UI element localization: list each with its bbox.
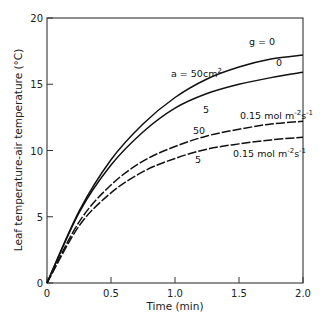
annotation-a50: a = 50cm2	[171, 67, 222, 79]
y-tick-label: 10	[30, 146, 43, 157]
annotation-50-dashed: 50	[193, 125, 205, 136]
x-tick-label: 0	[44, 288, 50, 299]
chart: 00.51.01.52.005101520 Time (min) Leaf te…	[0, 0, 323, 326]
annotation-mol-upper: 0.15 mol m-2s-1	[240, 109, 313, 121]
x-tick-label: 1.0	[167, 288, 183, 299]
series-line-1	[47, 55, 303, 283]
x-tick-label: 1.5	[231, 288, 247, 299]
series-line-2	[47, 72, 303, 283]
y-axis-label: Leaf temperature-air temperature (°C)	[12, 49, 24, 252]
y-tick-label: 20	[30, 13, 43, 24]
series-lines	[47, 55, 303, 283]
x-tick-label: 2.0	[295, 288, 311, 299]
y-tick-label: 15	[30, 79, 43, 90]
x-axis-label: Time (min)	[145, 300, 203, 312]
y-tick-label: 5	[37, 212, 43, 223]
annotation-5-solid: 5	[203, 104, 209, 115]
x-tick-label: 0.5	[103, 288, 119, 299]
annotation-5-dashed: 5	[195, 154, 201, 165]
y-tick-label: 0	[37, 278, 43, 289]
annotation-mol-lower: 0.15 mol m-2s-1	[233, 147, 306, 159]
annotation-g0: g = 0	[249, 36, 275, 47]
series-line-4	[47, 137, 303, 283]
annotation-0: 0	[276, 57, 282, 68]
